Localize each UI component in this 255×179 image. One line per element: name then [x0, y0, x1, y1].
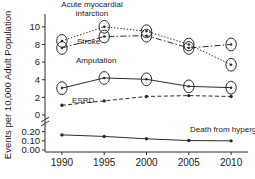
- data-point: [188, 43, 191, 46]
- data-point: [145, 137, 148, 140]
- annotation-label: Death from hyperglycemic crisis: [190, 125, 255, 134]
- y-tick-label-lower: 0.20: [22, 126, 41, 137]
- data-point: [229, 139, 232, 142]
- y-tick-label-upper: 2: [35, 92, 40, 103]
- data-point: [230, 43, 233, 46]
- series-3: [57, 72, 237, 95]
- annotation-label: Amputation: [76, 56, 116, 65]
- x-tick-label: 2005: [178, 157, 201, 168]
- annotation-esrd-label: ESRD: [72, 96, 94, 105]
- data-point: [103, 77, 106, 80]
- data-point: [60, 104, 63, 107]
- data-point: [103, 135, 106, 138]
- annotation-label: Stroke: [77, 37, 101, 46]
- annotation-death-label: Death from hyperglycemic crisis: [190, 125, 255, 134]
- annotation-ami-label: Acute myocardialinfarction: [61, 0, 123, 18]
- annotation-label: infarction: [76, 9, 108, 18]
- data-point: [230, 86, 233, 89]
- data-point: [145, 34, 148, 37]
- y-tick-label-upper: 6: [35, 56, 40, 67]
- annotation-stroke-label: Stroke: [77, 37, 101, 46]
- data-point: [60, 133, 63, 136]
- annotation-amp-label: Amputation: [76, 56, 116, 65]
- x-tick-label: 2000: [135, 157, 158, 168]
- y-tick-label-upper: 4: [35, 74, 40, 85]
- x-tick-label: 1995: [93, 157, 116, 168]
- data-point: [188, 47, 191, 50]
- y-tick-label-upper: 8: [35, 39, 40, 50]
- data-point: [61, 47, 64, 50]
- data-point: [103, 35, 106, 38]
- data-point: [145, 78, 148, 81]
- chart-container: 02468100.000.100.2019901995200020052010E…: [0, 0, 255, 179]
- y-axis-title: Events per 10,000 Adult Population: [2, 11, 13, 159]
- data-point: [103, 99, 106, 102]
- data-point: [187, 139, 190, 142]
- annotation-label: ESRD: [72, 96, 94, 105]
- data-point: [187, 94, 190, 97]
- annotation-label: Acute myocardial: [61, 0, 123, 9]
- series-5: [60, 133, 233, 142]
- data-point: [145, 95, 148, 98]
- data-point: [230, 63, 233, 66]
- data-point: [145, 30, 148, 33]
- data-point: [229, 95, 232, 98]
- x-tick-label: 1990: [51, 157, 74, 168]
- line-chart: 02468100.000.100.2019901995200020052010E…: [0, 0, 255, 179]
- data-point: [188, 85, 191, 88]
- x-tick-label: 2010: [220, 157, 243, 168]
- y-tick-label-upper: 10: [29, 21, 40, 32]
- data-point: [61, 87, 64, 90]
- y-tick-label-upper: 0: [35, 109, 40, 120]
- data-point: [103, 26, 106, 29]
